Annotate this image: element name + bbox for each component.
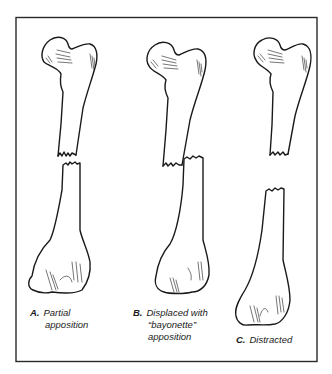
panel-c-proximal-femur <box>254 38 311 155</box>
caption-line2-b: “bayonette” <box>133 319 208 331</box>
caption-letter-a: A. <box>30 307 40 318</box>
caption-letter-c: C. <box>236 334 246 345</box>
caption-line1-b: Displaced with <box>147 307 208 318</box>
caption-line3-b: apposition <box>133 331 208 343</box>
caption-line2-a: apposition <box>30 319 88 331</box>
panel-b-proximal-femur <box>147 42 206 166</box>
panel-a-proximal-femur <box>42 37 97 156</box>
caption-panel-c: C.Distracted <box>236 334 292 346</box>
panel-a-distal-femur <box>29 162 90 293</box>
caption-line1-a: Partial <box>44 307 71 318</box>
caption-line1-c: Distracted <box>250 334 293 345</box>
panel-b-distal-femur <box>155 156 209 294</box>
panel-c-distal-femur <box>236 188 290 325</box>
caption-letter-b: B. <box>133 307 143 318</box>
caption-panel-a: A.Partial apposition <box>30 307 88 331</box>
caption-panel-b: B.Displaced with “bayonette” apposition <box>133 307 208 343</box>
